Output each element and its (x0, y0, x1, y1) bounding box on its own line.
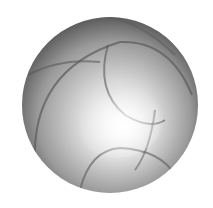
sphere-illustration (0, 0, 213, 208)
sphere-highlight (73, 78, 163, 158)
